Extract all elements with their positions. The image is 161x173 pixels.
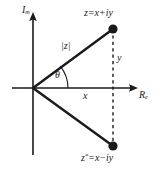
real-part-label: x (83, 91, 87, 101)
point-marker-z (108, 24, 117, 33)
point-label-z-conjugate-imaginary-term: iy (106, 152, 113, 163)
imaginary-axis-label-subscript: m (25, 8, 29, 15)
real-axis-label-subscript: e (145, 93, 148, 100)
argand-diagram: Im Re z=x+iy z*=x−iy |z| θ x y (0, 0, 161, 173)
imaginary-axis-label: Im (22, 5, 30, 15)
diagram-canvas (0, 0, 161, 173)
point-label-z-equals: = (88, 7, 95, 18)
angle-arc (60, 66, 68, 88)
radius-line-z-conjugate (33, 88, 113, 146)
modulus-label: |z| (61, 41, 70, 51)
real-axis-label: Re (139, 90, 148, 100)
point-label-z-conjugate-equals: = (88, 152, 95, 163)
point-label-z: z=x+iy (84, 8, 113, 18)
point-label-z-conjugate: z*=x−iy (81, 153, 113, 163)
point-label-z-operator: + (99, 7, 106, 18)
real-axis (12, 84, 138, 92)
imaginary-axis (29, 12, 37, 155)
radius-line-z (33, 29, 113, 88)
imaginary-part-label: y (117, 53, 121, 63)
point-marker-z-conjugate (108, 141, 117, 150)
angle-label-theta: θ (55, 70, 60, 80)
point-label-z-imaginary-term: iy (106, 7, 113, 18)
